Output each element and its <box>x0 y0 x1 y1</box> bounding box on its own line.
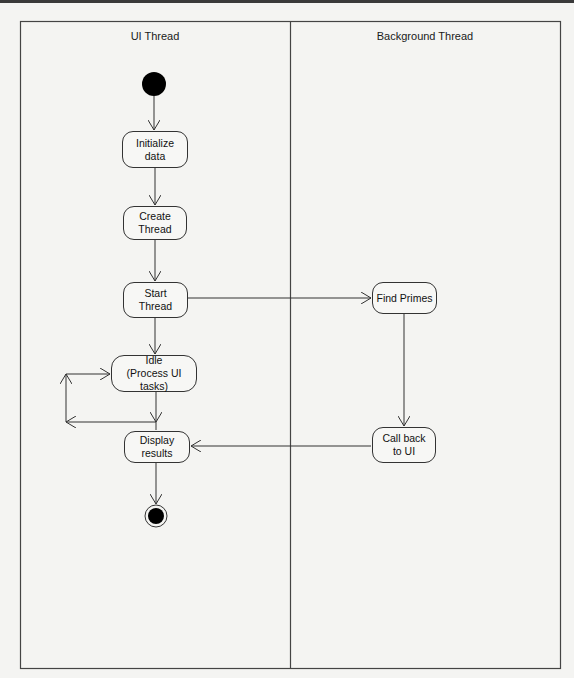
node-start-thread: Start Thread <box>123 282 188 318</box>
node-idle-process-ui-tasks: Idle (Process UI tasks) <box>111 355 197 392</box>
final-node-inner-icon <box>148 508 164 524</box>
node-label-line1: Create <box>139 210 171 223</box>
lane-title-background-thread: Background Thread <box>350 30 500 42</box>
node-label-line1: Call back <box>382 432 425 445</box>
node-label-line2: results <box>142 447 173 460</box>
node-initialize-data: Initialize data <box>122 131 188 168</box>
node-label-line2: Thread <box>139 300 172 313</box>
node-label: Find Primes <box>376 292 432 305</box>
node-call-back-to-ui: Call back to UI <box>372 427 436 463</box>
initial-node-icon <box>142 72 166 96</box>
lane-title-ui-thread: UI Thread <box>100 30 210 42</box>
activity-diagram-canvas <box>0 0 574 678</box>
node-display-results: Display results <box>124 431 190 463</box>
node-label-line2: (Process UI tasks) <box>114 367 194 393</box>
node-label: Initialize data <box>125 137 185 163</box>
node-label-line2: Thread <box>138 223 171 236</box>
node-label-line2: to UI <box>393 445 415 458</box>
node-create-thread: Create Thread <box>123 206 187 240</box>
node-label-line1: Idle <box>146 354 163 367</box>
node-find-primes: Find Primes <box>372 282 437 314</box>
node-label-line1: Start <box>144 287 166 300</box>
node-label-line1: Display <box>140 434 174 447</box>
